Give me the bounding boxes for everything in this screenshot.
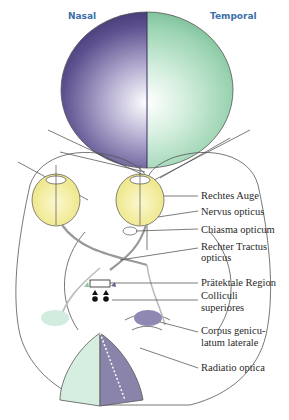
nasal-label: Nasal xyxy=(68,11,96,21)
colliculi-markers xyxy=(92,290,109,302)
label-chiasma-opticum: Chiasma opticum xyxy=(201,224,275,235)
label-opticus: opticus xyxy=(201,252,231,263)
label-rechter-tractus: Rechter Tractus xyxy=(201,241,267,252)
temporal-label: Temporal xyxy=(210,11,257,21)
label-latum-laterale: latum laterale xyxy=(201,337,258,348)
right-visual-cortex xyxy=(100,333,143,406)
right-lgn xyxy=(134,310,162,326)
left-lgn xyxy=(41,310,69,326)
left-eye xyxy=(32,165,80,226)
visual-pathway-diagram: Nasal Temporal Rechtes Auge Nervus optic… xyxy=(0,0,289,420)
label-colliculi: Colliculi xyxy=(201,290,238,301)
label-nervus-opticus: Nervus opticus xyxy=(201,206,264,217)
visual-field xyxy=(61,12,233,168)
leader-lines xyxy=(110,196,198,368)
chiasma-marker xyxy=(123,227,137,235)
label-rechtes-auge: Rechtes Auge xyxy=(201,190,259,201)
label-superiores: superiores xyxy=(201,302,244,313)
pretectal-region-box xyxy=(90,280,110,287)
left-visual-cortex xyxy=(60,333,100,406)
label-corpus-genicu: Corpus genicu- xyxy=(201,325,265,336)
right-eye xyxy=(116,165,164,226)
label-radiatio-optica: Radiatio optica xyxy=(201,362,265,373)
label-praetektale-region: Prätektale Region xyxy=(201,277,276,288)
